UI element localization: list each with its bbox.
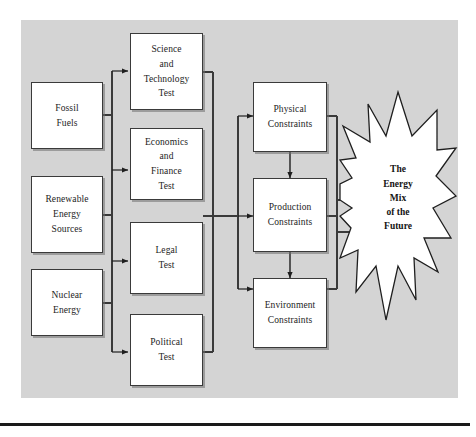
node-renewable-energy-sources-label: Renewable Energy Sources <box>42 192 91 236</box>
node-fossil-fuels[interactable]: Fossil Fuels <box>31 82 103 149</box>
node-energy-mix-of-the-future-label: The Energy Mix of the Future <box>383 162 413 233</box>
node-production-constraints[interactable]: Production Constraints <box>253 178 327 252</box>
node-renewable-energy-sources[interactable]: Renewable Energy Sources <box>31 176 103 253</box>
node-science-and-technology-test[interactable]: Science and Technology Test <box>130 33 203 110</box>
node-legal-test[interactable]: Legal Test <box>130 222 203 294</box>
node-physical-constraints[interactable]: Physical Constraints <box>253 82 327 152</box>
node-physical-constraints-label: Physical Constraints <box>265 102 315 131</box>
node-science-and-technology-test-label: Science and Technology Test <box>141 42 193 101</box>
node-political-test[interactable]: Political Test <box>130 314 203 386</box>
node-nuclear-energy-label: Nuclear Energy <box>49 288 86 317</box>
node-economics-and-finance-test[interactable]: Economics and Finance Test <box>130 128 203 200</box>
flow-diagram: Fossil Fuels Renewable Energy Sources Nu… <box>0 0 476 437</box>
node-economics-and-finance-test-label: Economics and Finance Test <box>142 135 191 194</box>
node-environment-constraints-label: Environment Constraints <box>262 298 319 327</box>
node-environment-constraints[interactable]: Environment Constraints <box>253 278 327 348</box>
footer-divider <box>0 423 470 426</box>
node-fossil-fuels-label: Fossil Fuels <box>52 101 81 130</box>
node-nuclear-energy[interactable]: Nuclear Energy <box>31 269 103 336</box>
node-energy-mix-of-the-future[interactable]: The Energy Mix of the Future <box>361 163 435 233</box>
node-legal-test-label: Legal Test <box>152 243 180 272</box>
node-political-test-label: Political Test <box>147 335 186 364</box>
node-production-constraints-label: Production Constraints <box>265 200 315 229</box>
